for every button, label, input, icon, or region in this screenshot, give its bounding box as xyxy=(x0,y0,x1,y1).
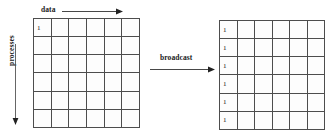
grid-cell xyxy=(238,94,256,112)
grid-cell xyxy=(52,55,70,73)
grid-cell xyxy=(52,37,70,55)
grid-cell xyxy=(69,37,87,55)
grid-cell xyxy=(52,110,70,128)
grid-cell: 1 xyxy=(220,75,238,93)
grid-cell xyxy=(52,92,70,110)
grid-cell xyxy=(290,21,308,39)
grid-cell xyxy=(122,37,140,55)
cell-value: 1 xyxy=(223,26,227,33)
grid-cell xyxy=(87,92,105,110)
grid-cell xyxy=(105,110,123,128)
grid-cell xyxy=(273,112,291,130)
grid-cell xyxy=(87,37,105,55)
grid-cell xyxy=(308,75,326,93)
cell-value: 1 xyxy=(223,62,227,69)
grid-cell xyxy=(87,73,105,91)
grid-cell xyxy=(105,37,123,55)
grid-cell: 1 xyxy=(220,21,238,39)
grid-cell xyxy=(308,112,326,130)
grid-cell: 1 xyxy=(220,39,238,57)
grid-cell xyxy=(308,57,326,75)
grid-cell xyxy=(238,112,256,130)
grid-cell: 1 xyxy=(34,19,52,37)
grid-cell xyxy=(255,112,273,130)
grid-cell xyxy=(238,21,256,39)
grid-cell xyxy=(273,94,291,112)
grid-cell xyxy=(122,73,140,91)
grid-cell xyxy=(87,110,105,128)
grid-cell xyxy=(105,19,123,37)
grid-cell xyxy=(34,110,52,128)
cell-value: 1 xyxy=(223,44,227,51)
grid-cell xyxy=(69,110,87,128)
diagram-canvas: data processes 1 broadcast 111111 xyxy=(0,0,335,139)
grid-cell xyxy=(273,57,291,75)
grid-cell xyxy=(273,21,291,39)
grid-cell: 1 xyxy=(220,112,238,130)
grid-cell xyxy=(69,73,87,91)
grid-cell xyxy=(290,57,308,75)
grid-cell xyxy=(34,92,52,110)
grid-cell xyxy=(290,75,308,93)
grid-cell xyxy=(273,75,291,93)
grid-cell xyxy=(273,39,291,57)
grid-cell xyxy=(290,39,308,57)
grid-cell xyxy=(290,112,308,130)
grid-cell xyxy=(238,39,256,57)
grid-cell xyxy=(87,19,105,37)
grid-cell xyxy=(34,55,52,73)
grid-cell xyxy=(69,92,87,110)
broadcast-label: broadcast xyxy=(160,53,192,62)
cell-value: 1 xyxy=(223,117,227,124)
grid-cell xyxy=(122,110,140,128)
grid-cell xyxy=(255,75,273,93)
data-arrow-icon xyxy=(62,8,124,15)
grid-cell xyxy=(52,19,70,37)
grid-cell xyxy=(34,73,52,91)
grid-cell xyxy=(255,39,273,57)
grid-cell xyxy=(69,19,87,37)
cell-value: 1 xyxy=(223,81,227,88)
grid-cell xyxy=(255,94,273,112)
grid-cell xyxy=(122,92,140,110)
source-grid: 1 xyxy=(33,18,140,128)
grid-cell: 1 xyxy=(220,57,238,75)
result-grid: 111111 xyxy=(219,20,325,130)
grid-cell xyxy=(69,55,87,73)
grid-cell xyxy=(255,21,273,39)
grid-cell xyxy=(34,37,52,55)
grid-cell xyxy=(105,73,123,91)
data-axis-label: data xyxy=(41,5,56,14)
grid-cell xyxy=(52,73,70,91)
grid-cell xyxy=(105,92,123,110)
grid-cell xyxy=(255,57,273,75)
cell-value: 1 xyxy=(223,99,227,106)
grid-cell xyxy=(122,55,140,73)
grid-cell xyxy=(122,19,140,37)
grid-cell: 1 xyxy=(220,94,238,112)
processes-arrow-icon xyxy=(12,44,19,126)
grid-cell xyxy=(105,55,123,73)
grid-cell xyxy=(308,94,326,112)
grid-cell xyxy=(308,21,326,39)
grid-cell xyxy=(308,39,326,57)
cell-value: 1 xyxy=(37,24,41,31)
broadcast-arrow-icon xyxy=(150,66,216,73)
grid-cell xyxy=(87,55,105,73)
grid-cell xyxy=(290,94,308,112)
grid-cell xyxy=(238,75,256,93)
grid-cell xyxy=(238,57,256,75)
